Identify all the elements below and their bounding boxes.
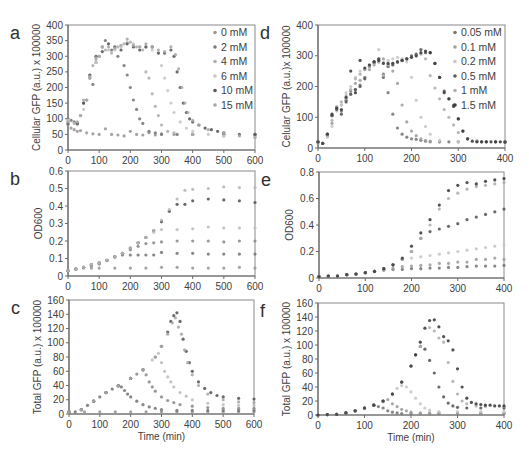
y-tick-label: 400 <box>296 20 313 31</box>
legend-label: 2 mM <box>221 41 247 53</box>
panel-letter: c <box>11 298 20 318</box>
x-tick-label: 400 <box>496 420 513 431</box>
x-tick-label: 200 <box>403 283 420 294</box>
panel-letter: f <box>260 301 266 321</box>
legend-label: 0.05 mM <box>461 26 502 38</box>
legend-label: 0.2 mM <box>461 55 496 67</box>
legend-label: 0 mM <box>221 26 247 38</box>
y-tick-label: 50 <box>52 129 64 140</box>
legend-label: 10 mM <box>221 84 253 96</box>
y-axis-label: Total GFP (a.u.) x 100000 <box>32 299 43 414</box>
x-tick-label: 0 <box>315 153 321 164</box>
legend-label: 15 mM <box>221 99 253 111</box>
legend-label: 6 mM <box>221 70 247 82</box>
y-tick-label: 200 <box>296 81 313 92</box>
y-tick-label: 0 <box>58 409 64 420</box>
legend-marker <box>453 103 457 107</box>
x-tick-label: 200 <box>122 419 139 430</box>
legend-marker <box>213 45 217 49</box>
y-tick-label: 0 <box>57 271 63 282</box>
panel-e: 00.20.40.60.80100200300400OD600e <box>261 167 513 295</box>
panel-b: 00.10.20.30.40.50.60100200300400500600OD… <box>10 166 264 293</box>
series-6-mM <box>66 225 256 272</box>
x-tick-label: 600 <box>247 155 264 166</box>
x-tick-label: 500 <box>215 419 232 430</box>
legend-marker <box>453 45 457 49</box>
y-axis-label: Celular GFP (a.u.)x 100000 <box>281 25 292 148</box>
figure-canvas: 0501001502002503003504000100200300400500… <box>0 0 529 460</box>
x-tick-label: 500 <box>215 281 232 292</box>
series-1-mM <box>317 181 505 278</box>
y-axis-label: Cellular GFP (a.u.) x 100000 <box>31 24 42 152</box>
y-tick-label: 100 <box>296 340 313 351</box>
y-tick-label: 0.2 <box>300 246 314 257</box>
y-tick-label: 300 <box>46 51 63 62</box>
plot-frame <box>68 171 255 276</box>
plot-frame <box>318 303 504 415</box>
panel-a: 0501001502002503003504000100200300400500… <box>10 20 264 167</box>
legend-marker <box>453 74 457 78</box>
x-tick-label: 400 <box>184 155 201 166</box>
x-tick-label: 100 <box>91 419 108 430</box>
y-tick-label: 300 <box>296 50 313 61</box>
legend-label: 0.1 mM <box>461 41 496 53</box>
x-tick-label: 0 <box>65 281 71 292</box>
x-tick-label: 400 <box>497 153 514 164</box>
y-axis-label: OD600 <box>33 207 44 239</box>
y-axis-label: Total GFP (a.u.) x 100000 <box>281 301 292 416</box>
legend-marker <box>213 74 217 78</box>
y-tick-label: 20 <box>53 394 65 405</box>
y-tick-label: 140 <box>296 312 313 323</box>
y-tick-label: 0.4 <box>49 201 63 212</box>
legend-marker <box>453 31 457 35</box>
y-tick-label: 60 <box>53 366 65 377</box>
y-tick-label: 40 <box>302 382 314 393</box>
panel-letter: e <box>261 170 271 190</box>
panel-letter: d <box>260 23 270 43</box>
y-tick-label: 80 <box>302 354 314 365</box>
series-1_5-mM <box>316 318 505 416</box>
series-1_5-mM <box>317 177 505 278</box>
series-0_2-mM <box>317 243 505 278</box>
y-tick-label: 0 <box>57 145 63 156</box>
x-tick-label: 200 <box>403 153 420 164</box>
y-tick-label: 100 <box>47 337 64 348</box>
x-tick-label: 300 <box>153 419 170 430</box>
x-tick-label: 600 <box>247 281 264 292</box>
legend-marker <box>213 103 217 107</box>
y-tick-label: 160 <box>47 295 64 306</box>
x-tick-label: 100 <box>356 420 373 431</box>
panel-f: 0204060801001201401600100200300400Total … <box>260 298 513 444</box>
x-tick-label: 0 <box>315 420 321 431</box>
y-tick-label: 60 <box>302 368 314 379</box>
x-tick-label: 100 <box>91 281 108 292</box>
series-10-mM <box>66 197 256 272</box>
y-tick-label: 0.2 <box>49 236 63 247</box>
series-2-mM <box>67 385 255 414</box>
x-tick-label: 0 <box>65 155 71 166</box>
x-tick-label: 100 <box>91 155 108 166</box>
y-tick-label: 200 <box>46 82 63 93</box>
x-tick-label: 300 <box>153 155 170 166</box>
x-tick-label: 300 <box>450 153 467 164</box>
x-tick-label: 400 <box>184 281 201 292</box>
panels-group: 0501001502002503003504000100200300400500… <box>10 20 514 444</box>
legend-label: 4 mM <box>221 55 247 67</box>
legend-label: 1 mM <box>461 84 487 96</box>
panel-letter: b <box>10 169 20 189</box>
y-tick-label: 0.1 <box>49 253 63 264</box>
y-tick-label: 120 <box>47 323 64 334</box>
x-tick-label: 500 <box>215 155 232 166</box>
legend-marker <box>213 89 217 93</box>
series-2-mM <box>66 251 256 273</box>
y-tick-label: 160 <box>296 298 313 309</box>
y-tick-label: 100 <box>46 113 63 124</box>
x-tick-label: 300 <box>153 281 170 292</box>
y-tick-label: 80 <box>53 352 65 363</box>
x-axis-label: Time (min) <box>387 432 434 443</box>
y-tick-label: 140 <box>47 309 64 320</box>
y-axis-label: OD600 <box>284 209 295 241</box>
y-tick-label: 0.6 <box>49 166 63 177</box>
x-tick-label: 400 <box>496 283 513 294</box>
y-tick-label: 0.6 <box>300 193 314 204</box>
